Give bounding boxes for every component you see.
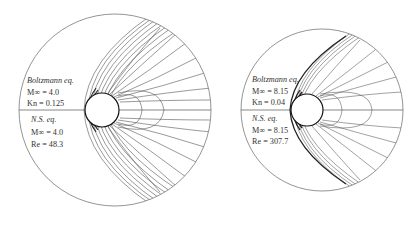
left-upper-title: Boltzmann eq. — [27, 77, 74, 85]
left-cylinder — [85, 93, 119, 127]
right-lower-param: Re = 307.7 — [252, 138, 288, 146]
right-cylinder — [291, 94, 323, 126]
right-lower-title: N.S. eq. — [252, 115, 277, 123]
right-upper-mach: M∞ = 8.15 — [252, 88, 288, 96]
left-lower-param: Re = 48.3 — [31, 141, 63, 149]
left-lower-mach: M∞ = 4.0 — [31, 129, 63, 137]
left-upper-mach: M∞ = 4.0 — [27, 89, 59, 97]
left-lower-title: N.S. eq. — [31, 116, 56, 124]
right-upper-title: Boltzmann eq. — [252, 76, 299, 84]
right-upper-param: Kn = 0.04 — [252, 99, 285, 107]
left-upper-param: Kn = 0.125 — [27, 100, 64, 108]
right-lower-mach: M∞ = 8.15 — [252, 127, 288, 135]
